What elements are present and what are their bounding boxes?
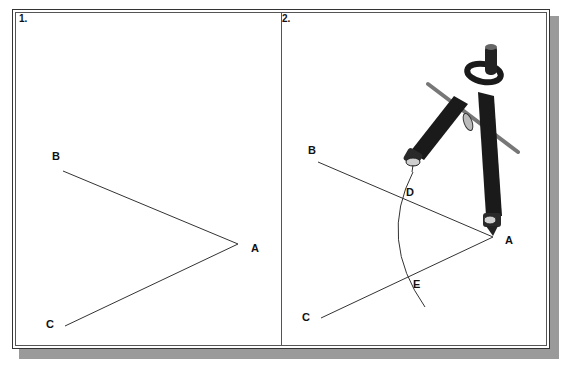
line-ab-panel-1 <box>63 171 238 244</box>
panel-2-number: 2. <box>282 13 290 24</box>
point-b-label: B <box>308 144 316 156</box>
line-ab-panel-2 <box>318 162 493 237</box>
line-ac-panel-1 <box>65 244 238 326</box>
point-a-label: A <box>505 234 513 246</box>
point-a-label: A <box>251 242 259 254</box>
point-c-label: C <box>302 311 310 323</box>
panel-1-number: 1. <box>19 13 27 24</box>
geometry-drawing <box>0 0 568 368</box>
point-c-label: C <box>46 318 54 330</box>
point-b-label: B <box>52 150 60 162</box>
compass-icon <box>403 44 518 236</box>
panel-1-angle <box>63 171 238 326</box>
line-ac-panel-2 <box>321 237 493 318</box>
point-e-label: E <box>413 278 420 290</box>
point-d-label: D <box>406 186 414 198</box>
